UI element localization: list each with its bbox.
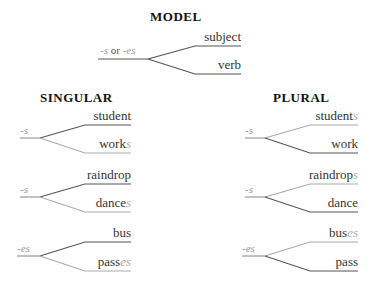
plural-bottom-1: work	[331, 136, 358, 152]
word-base: work	[331, 136, 358, 151]
word-suffix: s	[126, 195, 131, 210]
plural-top-2: raindrops	[309, 167, 358, 183]
model-ending-s: -s	[100, 44, 108, 56]
word-suffix: es	[120, 254, 131, 269]
model-top-label: subject	[204, 29, 241, 45]
plural-ending-3: -es	[242, 242, 255, 254]
word-base: bus	[113, 225, 131, 240]
singular-bottom-2: dances	[96, 195, 131, 211]
subject-verb-agreement-diagram: MODEL -s or -es subject verb SINGULAR -s…	[0, 0, 377, 291]
model-ending-es: -es	[123, 44, 136, 56]
plural-ending-2: -s	[245, 183, 253, 195]
singular-top-2: raindrop	[87, 167, 131, 183]
word-base: pass	[336, 254, 358, 269]
model-ending-or: or	[108, 44, 123, 56]
plural-bottom-3: pass	[336, 254, 358, 270]
word-base: bus	[329, 225, 347, 240]
singular-ending-1: -s	[20, 124, 28, 136]
model-bottom-label: verb	[218, 57, 241, 73]
singular-ending-3: -es	[17, 242, 30, 254]
plural-bottom-2: dance	[328, 195, 358, 211]
word-suffix: es	[347, 225, 358, 240]
word-base: raindrop	[87, 167, 131, 182]
singular-top-3: bus	[113, 225, 131, 241]
singular-bottom-1: works	[99, 136, 131, 152]
branch-lines	[0, 0, 377, 291]
plural-ending-1: -s	[245, 124, 253, 136]
plural-title: PLURAL	[273, 90, 329, 106]
model-title: MODEL	[150, 9, 202, 25]
word-base: raindrop	[309, 167, 353, 182]
singular-bottom-3: passes	[98, 254, 131, 270]
word-base: dance	[96, 195, 126, 210]
word-suffix: s	[353, 167, 358, 182]
word-base: student	[93, 108, 131, 123]
word-base: student	[315, 108, 353, 123]
singular-title: SINGULAR	[40, 90, 113, 106]
word-suffix: s	[126, 136, 131, 151]
word-base: work	[99, 136, 126, 151]
word-base: pass	[98, 254, 120, 269]
singular-top-1: student	[93, 108, 131, 124]
word-suffix: s	[353, 108, 358, 123]
plural-top-1: students	[315, 108, 358, 124]
word-base: dance	[328, 195, 358, 210]
plural-top-3: buses	[329, 225, 358, 241]
singular-ending-2: -s	[20, 183, 28, 195]
model-ending: -s or -es	[100, 44, 135, 56]
